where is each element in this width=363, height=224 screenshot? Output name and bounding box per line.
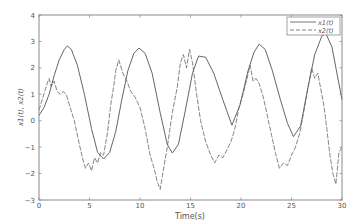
y-tick-label: 4 [31,12,36,20]
axes-box [39,15,342,200]
x-axis-ticks: 051015202530 [37,15,347,210]
chart-container: 051015202530 −3−2−101234 Time(s) x1(t), … [0,0,363,224]
y-tick-label: 1 [31,91,35,99]
y-tick-label: 0 [31,117,35,125]
x-tick-label: 20 [237,202,246,210]
y-tick-label: 3 [31,38,35,46]
line-chart: 051015202530 −3−2−101234 Time(s) x1(t), … [0,0,363,224]
series-x2t-line [39,49,342,189]
x-axis-label: Time(s) [174,212,205,221]
x-tick-label: 10 [136,202,145,210]
legend-label-x2: x2(t) [317,27,334,35]
x-tick-label: 5 [87,202,91,210]
x-tick-label: 25 [287,202,296,210]
x-tick-label: 0 [37,202,41,210]
y-tick-label: −3 [25,197,35,205]
plot-curves [39,34,342,190]
x-tick-label: 30 [338,202,347,210]
y-tick-label: −1 [25,144,35,152]
y-axis-label: x1(t), x2(t) [17,88,25,127]
y-tick-label: −2 [25,170,35,178]
legend-label-x1: x1(t) [317,19,334,27]
legend: x1(t) x2(t) [287,17,340,35]
y-tick-label: 2 [31,64,35,72]
y-axis-ticks: −3−2−101234 [25,12,342,205]
x-tick-label: 15 [186,202,195,210]
